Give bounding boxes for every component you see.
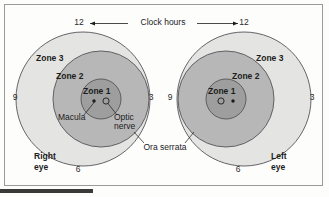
optic-nerve-label: Optic nerve — [114, 113, 146, 131]
right-eye-clock-3: 3 — [146, 93, 156, 102]
right-eye-clock-9: 9 — [10, 93, 20, 102]
right-eye-name-line1: Right — [34, 152, 56, 161]
left-eye-name-line1: Left — [271, 152, 287, 161]
scan-artifact-bar — [0, 189, 93, 193]
retinal-zones-figure: Clock hours 12 3 6 9 12 3 6 9 Zone 3 Zon… — [0, 0, 329, 197]
clock-hours-left-arrowhead — [90, 22, 95, 26]
ora-serrata-label: Ora serrata — [135, 143, 195, 152]
macula-label: Macula — [58, 113, 85, 122]
left-eye-clock-12: 12 — [237, 18, 251, 27]
right-eye-name-line2: eye — [34, 163, 48, 172]
left-eye-zone1-label: Zone 1 — [208, 87, 235, 96]
left-eye-zone2-label: Zone 2 — [232, 72, 259, 81]
left-eye-clock-9: 9 — [165, 93, 175, 102]
right-eye-zone1-label: Zone 1 — [83, 87, 110, 96]
left-eye-macula-dot — [231, 99, 234, 102]
right-eye-clock-6: 6 — [73, 165, 83, 174]
right-eye-zone3-label: Zone 3 — [36, 54, 63, 63]
right-eye-clock-12: 12 — [72, 18, 86, 27]
right-eye-macula-dot — [92, 99, 95, 102]
left-eye-zone3-label: Zone 3 — [256, 54, 283, 63]
left-eye-clock-3: 3 — [307, 93, 317, 102]
right-eye-zone2-label: Zone 2 — [56, 72, 83, 81]
left-eye-clock-6: 6 — [233, 165, 243, 174]
clock-hours-label: Clock hours — [129, 18, 197, 27]
optic-nerve-label-line1: Optic nerve — [114, 112, 135, 131]
left-eye-zone1-circle — [206, 79, 246, 119]
left-eye-name-line2: eye — [271, 163, 285, 172]
